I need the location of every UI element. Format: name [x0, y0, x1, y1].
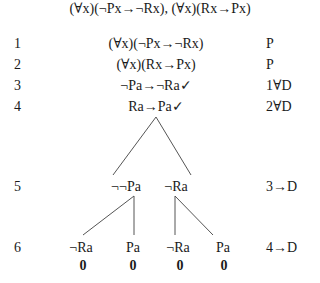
leaf-node-2: Pa — [126, 240, 140, 256]
branch-node-left: ¬¬Pa — [111, 179, 141, 195]
closed-branch-marker: 0 — [130, 258, 137, 274]
branch-line — [113, 117, 156, 175]
branch-node-right: ¬Ra — [164, 179, 187, 195]
leaf-node-3: ¬Ra — [166, 240, 189, 256]
leaf-node-4: Pa — [216, 240, 230, 256]
closed-branch-marker: 0 — [177, 258, 184, 274]
justification-6: 4→D — [266, 240, 297, 256]
line-number-5: 5 — [14, 179, 21, 195]
branch-line — [175, 196, 213, 235]
closed-branch-marker: 0 — [221, 258, 228, 274]
branch-line — [83, 196, 134, 235]
justification-5: 3→D — [266, 179, 297, 195]
leaf-node-1: ¬Ra — [69, 240, 92, 256]
line-number-6: 6 — [14, 240, 21, 256]
branch-line — [156, 117, 191, 175]
closed-branch-marker: 0 — [80, 258, 87, 274]
